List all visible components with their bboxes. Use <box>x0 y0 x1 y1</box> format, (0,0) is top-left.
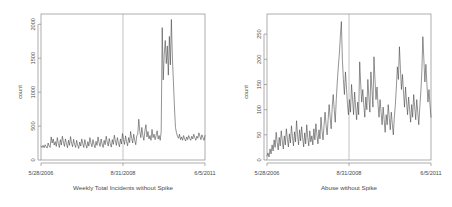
left-xtick-end: 6/5/2011 <box>194 170 215 176</box>
right-panel-title: Abuse without Spike <box>321 184 378 191</box>
left-ytick-500: 500 <box>30 121 36 130</box>
left-x-axis: 5/28/2006 8/31/2008 6/5/2011 <box>29 163 216 176</box>
right-chart-svg: 0 50 100 150 200 250 count 5/28/2006 8/3… <box>226 0 452 207</box>
left-y-axis-label: count <box>17 85 23 99</box>
right-ytick-0: 0 <box>256 158 262 161</box>
left-y-axis: 0 500 1000 1500 2000 <box>30 18 41 161</box>
left-chart-svg: 0 500 1000 1500 2000 count 5/28/2006 8/3… <box>0 0 226 207</box>
right-ytick-100: 100 <box>256 105 262 114</box>
right-ytick-200: 200 <box>256 55 262 64</box>
right-xtick-mid: 8/31/2008 <box>337 170 362 176</box>
right-y-axis-label: count <box>243 85 249 99</box>
left-xtick-start: 5/28/2006 <box>29 170 54 176</box>
right-ytick-250: 250 <box>256 29 262 38</box>
right-ytick-50: 50 <box>256 132 262 138</box>
left-ytick-2000: 2000 <box>30 18 36 30</box>
left-ytick-0: 0 <box>30 158 36 161</box>
right-ytick-150: 150 <box>256 80 262 89</box>
chart-panel-weekly-total-incidents: 0 500 1000 1500 2000 count 5/28/2006 8/3… <box>0 0 226 207</box>
right-xtick-end: 6/5/2011 <box>420 170 441 176</box>
right-x-axis: 5/28/2006 8/31/2008 6/5/2011 <box>255 163 442 176</box>
left-ytick-1000: 1000 <box>30 86 36 98</box>
chart-panel-abuse: 0 50 100 150 200 250 count 5/28/2006 8/3… <box>226 0 452 207</box>
left-ytick-1500: 1500 <box>30 52 36 64</box>
left-xtick-mid: 8/31/2008 <box>111 170 136 176</box>
right-y-axis: 0 50 100 150 200 250 <box>256 29 267 161</box>
figure-root: 0 500 1000 1500 2000 count 5/28/2006 8/3… <box>0 0 452 207</box>
right-xtick-start: 5/28/2006 <box>255 170 280 176</box>
left-panel-title: Weekly Total Incidents without Spike <box>73 184 173 191</box>
